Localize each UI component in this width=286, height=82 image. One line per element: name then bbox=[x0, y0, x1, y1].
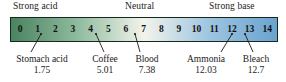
ph-tick-12: 12 bbox=[227, 25, 237, 35]
callout-value: 12.03 bbox=[176, 65, 236, 76]
ph-tick-13: 13 bbox=[245, 25, 255, 35]
ph-tick-5: 5 bbox=[106, 25, 111, 35]
callout-ammonia: Ammonia 12.03 bbox=[176, 54, 236, 76]
callout-name: Bleach bbox=[232, 54, 280, 65]
ph-tick-7: 7 bbox=[141, 25, 146, 35]
callout-stomach-acid: Stomach acid 1.75 bbox=[0, 54, 84, 76]
callout-name: Blood bbox=[124, 54, 170, 65]
ph-tick-0: 0 bbox=[18, 25, 23, 35]
ph-tick-4: 4 bbox=[88, 25, 93, 35]
ph-tick-9: 9 bbox=[177, 25, 182, 35]
ph-tick-10: 10 bbox=[192, 25, 202, 35]
ph-tick-11: 11 bbox=[210, 25, 219, 35]
ph-scale-bar: 01234567891011121314 bbox=[10, 17, 278, 42]
callout-value: 1.75 bbox=[0, 65, 84, 76]
ph-tick-3: 3 bbox=[71, 25, 76, 35]
callout-bleach: Bleach 12.7 bbox=[232, 54, 280, 76]
callout-value: 12.7 bbox=[232, 65, 280, 76]
ph-tick-8: 8 bbox=[159, 25, 164, 35]
callout-name: Stomach acid bbox=[0, 54, 84, 65]
callout-value: 7.38 bbox=[124, 65, 170, 76]
category-label-strong-acid: Strong acid bbox=[13, 1, 58, 11]
callout-blood: Blood 7.38 bbox=[124, 54, 170, 76]
ph-tick-1: 1 bbox=[35, 25, 40, 35]
callout-name: Ammonia bbox=[176, 54, 236, 65]
ph-tick-6: 6 bbox=[124, 25, 129, 35]
ph-tick-2: 2 bbox=[53, 25, 58, 35]
ph-scale-figure: Strong acid Neutral Strong base 01234567… bbox=[0, 0, 286, 82]
category-label-neutral: Neutral bbox=[125, 1, 154, 11]
ph-tick-14: 14 bbox=[262, 25, 272, 35]
category-label-strong-base: Strong base bbox=[209, 1, 255, 11]
